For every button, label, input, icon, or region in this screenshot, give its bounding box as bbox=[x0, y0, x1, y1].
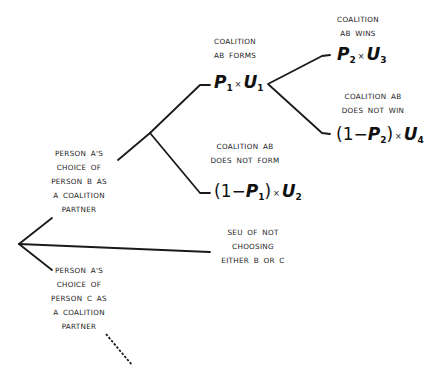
label-coalition-not-win: COALITION AB DOES NOT WIN bbox=[330, 90, 416, 118]
label-coalition-not-form: COALITION AB DOES NOT FORM bbox=[200, 140, 290, 168]
expr-p1-u1: P1×U1 bbox=[214, 72, 264, 98]
label-choice-c: PERSON A'S CHOICE OF PERSON C AS A COALI… bbox=[40, 264, 118, 334]
branch-wins-notwin bbox=[268, 55, 330, 134]
decision-tree-diagram: PERSON A'S CHOICE OF PERSON B AS A COALI… bbox=[0, 0, 426, 381]
label-choice-b: PERSON A'S CHOICE OF PERSON B AS A COALI… bbox=[40, 147, 118, 217]
label-coalition-wins: COALITION AB WINS bbox=[330, 13, 386, 41]
branch-to-none bbox=[19, 244, 210, 252]
label-coalition-forms: COALITION AB FORMS bbox=[205, 35, 265, 63]
branch-to-b bbox=[19, 218, 52, 244]
label-not-choosing: SEU OF NOT CHOOSING EITHER B OR C bbox=[215, 226, 291, 268]
dashed-continuation bbox=[106, 334, 132, 365]
expr-1-p1-u2: (1−P1)×U2 bbox=[214, 181, 302, 207]
expr-p2-u3: P2×U3 bbox=[337, 44, 387, 70]
branch-forms bbox=[150, 85, 210, 133]
branch-b-trunk bbox=[118, 133, 150, 160]
expr-1-p2-u4: (1−P2)×U4 bbox=[336, 124, 424, 150]
